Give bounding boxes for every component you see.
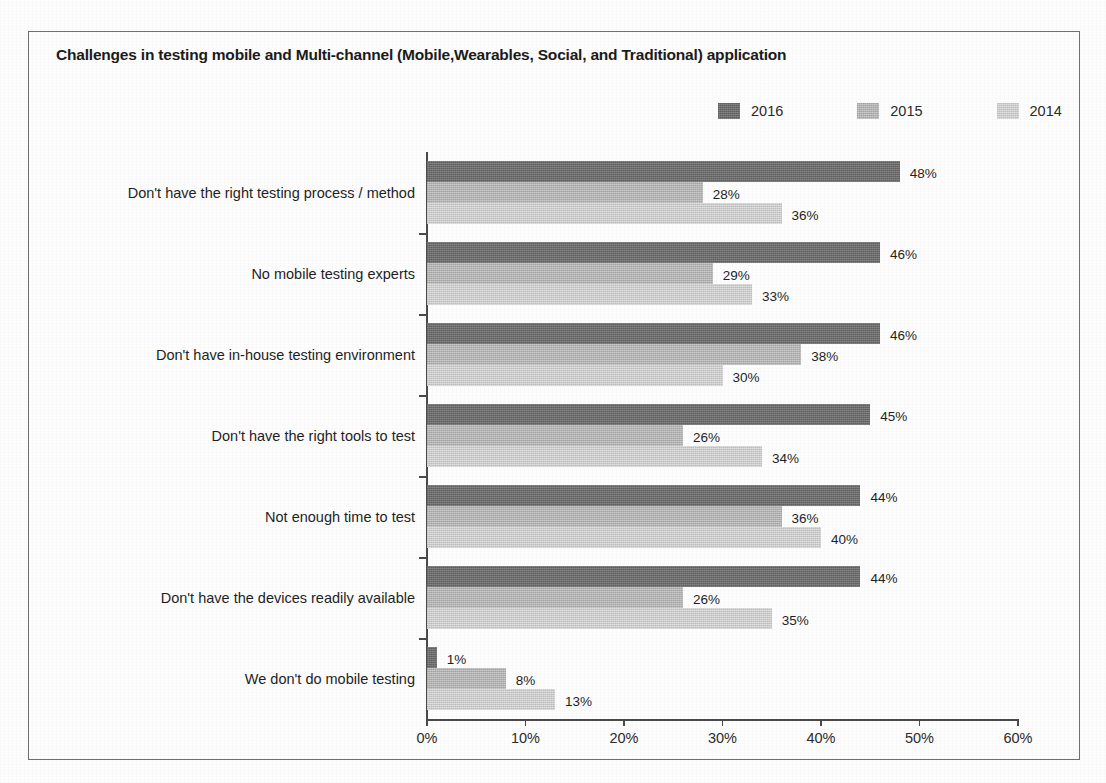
x-tick-5 — [919, 719, 921, 726]
bar-2016-0[interactable] — [427, 161, 900, 182]
y-tick-1 — [419, 233, 427, 235]
category-label-1: No mobile testing experts — [251, 266, 415, 282]
bar-value-2016-3: 45% — [880, 408, 907, 423]
chart-title: Challenges in testing mobile and Multi-c… — [56, 46, 1016, 64]
bar-value-2014-0: 36% — [792, 207, 819, 222]
bar-2016-2[interactable] — [427, 323, 880, 344]
bar-2015-4[interactable] — [427, 506, 782, 527]
x-tick-3 — [722, 719, 724, 726]
bar-value-2014-1: 33% — [762, 288, 789, 303]
y-tick-3 — [419, 395, 427, 397]
x-tick-label-5: 50% — [905, 730, 934, 746]
legend-item-2014[interactable]: 2014 — [997, 103, 1062, 119]
bar-value-2014-5: 35% — [782, 612, 809, 627]
bar-value-2016-1: 46% — [890, 246, 917, 261]
bar-value-2015-5: 26% — [693, 591, 720, 606]
legend-item-2016[interactable]: 2016 — [718, 103, 783, 119]
bar-2014-4[interactable] — [427, 527, 821, 548]
category-label-5: Don't have the devices readily available — [161, 590, 415, 606]
bar-value-2015-6: 8% — [516, 672, 536, 687]
bar-value-2016-6: 1% — [447, 651, 467, 666]
bar-value-2014-4: 40% — [831, 531, 858, 546]
chart-legend: 201620152014 — [718, 103, 1062, 119]
bar-2016-3[interactable] — [427, 404, 870, 425]
bar-2016-1[interactable] — [427, 242, 880, 263]
category-label-0: Don't have the right testing process / m… — [128, 185, 415, 201]
category-axis-labels: Don't have the right testing process / m… — [60, 152, 415, 719]
legend-swatch-2015 — [857, 103, 879, 119]
x-tick-6 — [1017, 719, 1019, 726]
bar-2014-2[interactable] — [427, 365, 723, 386]
bar-2016-5[interactable] — [427, 566, 860, 587]
legend-label-2016: 2016 — [751, 103, 783, 119]
bar-2016-6[interactable] — [427, 647, 437, 668]
x-tick-4 — [820, 719, 822, 726]
category-label-6: We don't do mobile testing — [245, 671, 415, 687]
legend-label-2014: 2014 — [1030, 103, 1062, 119]
x-tick-2 — [623, 719, 625, 726]
bar-2014-3[interactable] — [427, 446, 762, 467]
bar-value-2015-2: 38% — [811, 348, 838, 363]
bar-2014-5[interactable] — [427, 608, 772, 629]
x-tick-label-2: 20% — [609, 730, 638, 746]
bar-2015-1[interactable] — [427, 263, 713, 284]
y-tick-6 — [419, 638, 427, 640]
x-tick-0 — [426, 719, 428, 726]
category-label-4: Not enough time to test — [265, 509, 415, 525]
bar-value-2014-2: 30% — [733, 369, 760, 384]
bar-2015-5[interactable] — [427, 587, 683, 608]
bar-value-2016-4: 44% — [870, 489, 897, 504]
y-tick-2 — [419, 314, 427, 316]
bar-value-2015-4: 36% — [792, 510, 819, 525]
bar-2014-0[interactable] — [427, 203, 782, 224]
legend-label-2015: 2015 — [890, 103, 922, 119]
bar-value-2015-3: 26% — [693, 429, 720, 444]
bar-2015-6[interactable] — [427, 668, 506, 689]
bar-2015-2[interactable] — [427, 344, 801, 365]
bar-value-2015-1: 29% — [723, 267, 750, 282]
category-label-2: Don't have in-house testing environment — [156, 347, 415, 363]
x-tick-label-0: 0% — [417, 730, 438, 746]
plot-area: 0%10%20%30%40%50%60%48%28%36%46%29%33%46… — [427, 152, 1018, 719]
legend-swatch-2016 — [718, 103, 740, 119]
bar-value-2016-2: 46% — [890, 327, 917, 342]
legend-item-2015[interactable]: 2015 — [857, 103, 922, 119]
chart-page: Challenges in testing mobile and Multi-c… — [0, 0, 1106, 783]
bar-2014-6[interactable] — [427, 689, 555, 710]
bar-2015-0[interactable] — [427, 182, 703, 203]
y-tick-4 — [419, 476, 427, 478]
bar-value-2016-5: 44% — [870, 570, 897, 585]
x-tick-label-3: 30% — [708, 730, 737, 746]
x-tick-label-6: 60% — [1003, 730, 1032, 746]
bar-value-2014-6: 13% — [565, 693, 592, 708]
x-tick-label-1: 10% — [511, 730, 540, 746]
bar-value-2016-0: 48% — [910, 165, 937, 180]
bar-value-2015-0: 28% — [713, 186, 740, 201]
legend-swatch-2014 — [997, 103, 1019, 119]
bar-value-2014-3: 34% — [772, 450, 799, 465]
category-label-3: Don't have the right tools to test — [212, 428, 415, 444]
bar-2014-1[interactable] — [427, 284, 752, 305]
x-tick-1 — [525, 719, 527, 726]
y-tick-5 — [419, 557, 427, 559]
bar-2015-3[interactable] — [427, 425, 683, 446]
x-tick-label-4: 40% — [806, 730, 835, 746]
bar-2016-4[interactable] — [427, 485, 860, 506]
